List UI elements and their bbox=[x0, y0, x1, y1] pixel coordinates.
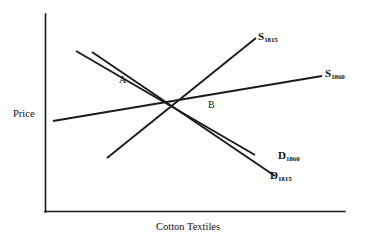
supply-1815-label: S1815 bbox=[258, 31, 278, 42]
supply-1860-label-subscript: 1860 bbox=[331, 73, 345, 81]
demand-1815-label-base: D bbox=[270, 169, 278, 181]
demand-1860-label-subscript: 1860 bbox=[286, 155, 300, 163]
demand-1860-label: D1860 bbox=[278, 150, 300, 161]
x-axis-label: Cotton Textiles bbox=[156, 222, 220, 233]
supply-1815-label-subscript: 1815 bbox=[264, 36, 278, 44]
y-axis-label: Price bbox=[13, 109, 35, 120]
chart-plot-area bbox=[0, 0, 366, 239]
supply-curve-1815 bbox=[107, 38, 256, 158]
supply-curve-1860 bbox=[53, 76, 322, 121]
demand-1815-label: D1815 bbox=[270, 170, 292, 181]
supply-1860-label: S1860 bbox=[325, 68, 345, 79]
equilibrium-point-b-label: B bbox=[208, 100, 215, 110]
supply-demand-chart: Price Cotton Textiles S1815 S1860 D1860 … bbox=[0, 0, 366, 239]
demand-1860-label-base: D bbox=[278, 149, 286, 161]
equilibrium-point-a-label: A bbox=[119, 75, 126, 85]
demand-1815-label-subscript: 1815 bbox=[278, 175, 292, 183]
